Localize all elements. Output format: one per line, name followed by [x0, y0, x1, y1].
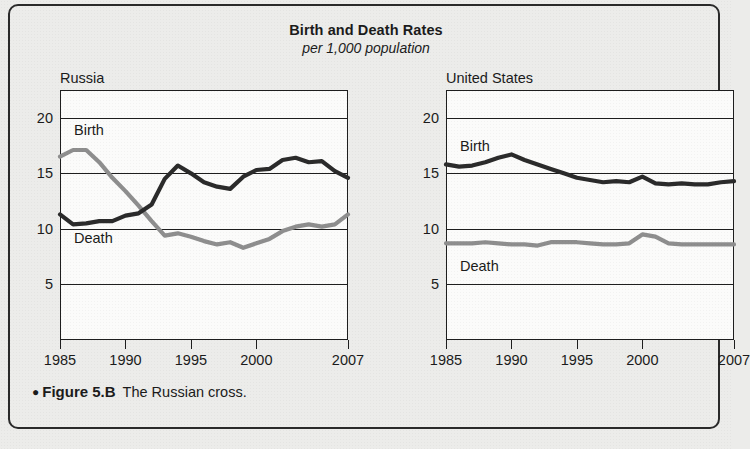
series-lines-united-states: [446, 90, 734, 340]
plot-area-united-states: 2015105 19851990199520002007 Birth Death: [446, 90, 734, 340]
x-tick-mark-1995: [191, 340, 192, 349]
page-title: Birth and Death Rates: [0, 22, 732, 39]
caption-figure-number: Figure 5.B: [42, 383, 115, 400]
x-tick-label-2000: 2000: [626, 352, 658, 368]
plot-area-russia: 2015105 19851990199520002007 Birth Death: [60, 90, 348, 340]
x-tick-mark-2000: [256, 340, 257, 349]
x-tick-label-1985: 1985: [430, 352, 462, 368]
y-tick-label-20: 20: [423, 110, 439, 126]
panel-label-russia: Russia: [60, 70, 104, 86]
caption-text: The Russian cross.: [123, 384, 247, 400]
x-tick-mark-1985: [60, 340, 61, 349]
y-tick-label-10: 10: [423, 221, 439, 237]
x-tick-mark-2000: [642, 340, 643, 349]
y-tick-label-15: 15: [423, 165, 439, 181]
x-tick-mark-1985: [446, 340, 447, 349]
series-line-birth-united-states: [446, 154, 734, 184]
series-label-death-russia: Death: [74, 230, 113, 246]
x-tick-label-1990: 1990: [109, 352, 141, 368]
x-tick-label-2007: 2007: [718, 352, 750, 368]
x-tick-label-1995: 1995: [175, 352, 207, 368]
y-tick-label-5: 5: [45, 276, 53, 292]
x-tick-label-1995: 1995: [561, 352, 593, 368]
x-tick-mark-2007: [734, 340, 735, 349]
panel-label-united-states: United States: [446, 70, 533, 86]
figure-caption: ●Figure 5.BThe Russian cross.: [32, 383, 247, 400]
x-tick-label-1985: 1985: [44, 352, 76, 368]
chart-subtitle: per 1,000 population: [0, 40, 732, 57]
series-label-death-united-states: Death: [460, 258, 499, 274]
x-tick-mark-1990: [511, 340, 512, 349]
x-tick-label-2007: 2007: [332, 352, 364, 368]
series-label-birth-russia: Birth: [74, 122, 104, 138]
y-tick-label-5: 5: [431, 276, 439, 292]
x-tick-mark-1990: [125, 340, 126, 349]
chart-title-block: Birth and Death Rates per 1,000 populati…: [0, 22, 732, 56]
y-tick-label-15: 15: [37, 165, 53, 181]
y-tick-label-20: 20: [37, 110, 53, 126]
y-tick-label-10: 10: [37, 221, 53, 237]
x-tick-mark-1995: [577, 340, 578, 349]
series-label-birth-united-states: Birth: [460, 138, 490, 154]
x-tick-label-1990: 1990: [495, 352, 527, 368]
x-tick-mark-2007: [348, 340, 349, 349]
caption-bullet-icon: ●: [32, 385, 39, 399]
x-tick-label-2000: 2000: [240, 352, 272, 368]
series-line-death-united-states: [446, 234, 734, 245]
